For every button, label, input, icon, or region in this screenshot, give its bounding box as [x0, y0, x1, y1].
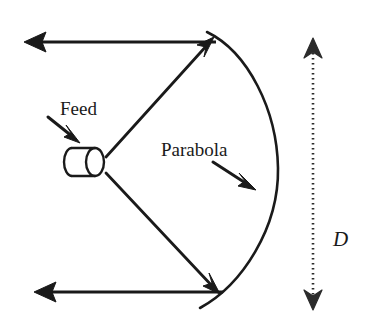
- parabolic-antenna-diagram: Feed Parabola D: [0, 0, 375, 326]
- diagram-canvas: [0, 0, 375, 326]
- parabola-pointer-shaft: [213, 162, 247, 184]
- feed-horn-aperture: [86, 148, 104, 176]
- parabola-curve: [200, 32, 278, 308]
- feed-horn-back-cap: [64, 148, 72, 176]
- diameter-label: D: [333, 229, 348, 250]
- parabola-label: Parabola: [161, 140, 227, 159]
- feed-label: Feed: [60, 99, 97, 118]
- feed-pointer-arrowhead: [64, 125, 80, 143]
- diameter-arrowhead-top: [304, 38, 322, 58]
- lower-ray-to-reflector-shaft: [106, 173, 214, 288]
